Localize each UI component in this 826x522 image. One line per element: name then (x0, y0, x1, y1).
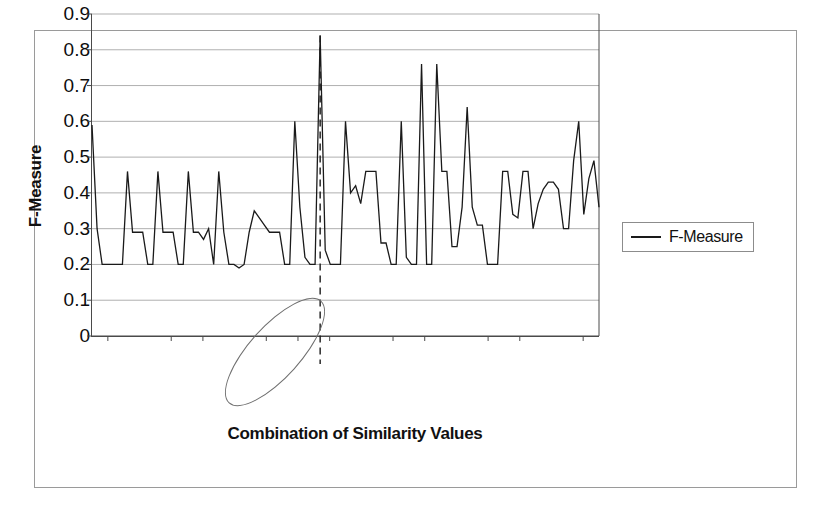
chart-legend: F-Measure (622, 222, 754, 252)
series-line-f-measure (92, 35, 599, 268)
y-tick-label: 0.1 (38, 289, 90, 311)
y-tick-label: 0.9 (38, 3, 90, 25)
x-axis-title: Combination of Similarity Values (120, 424, 590, 444)
plot-inner (92, 14, 599, 336)
line-chart-svg (92, 14, 599, 336)
legend-line-swatch (631, 236, 661, 238)
y-tick-label: 0.8 (38, 39, 90, 61)
chart-figure: F-Measure 00.10.20.30.40.50.60.70.80.9 (… (0, 0, 826, 522)
x-axis-tick-labels: (0.9,0.8,0.8,0.01)....(0.9,0.2,0.2,0.01)… (0, 336, 763, 426)
data-series-group (92, 35, 599, 268)
y-tick-label: 0.5 (38, 146, 90, 168)
y-tick-label: 0.6 (38, 110, 90, 132)
plot-area (91, 14, 599, 337)
y-tick-label: 0.4 (38, 182, 90, 204)
legend-label: F-Measure (669, 228, 743, 246)
y-tick-label: 0.2 (38, 253, 90, 275)
y-tick-label: 0.7 (38, 75, 90, 97)
y-tick-label: 0.3 (38, 218, 90, 240)
